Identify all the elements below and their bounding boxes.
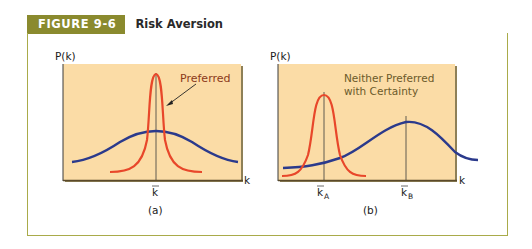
- panel-b-annotation-line1: Neither Preferred: [344, 72, 434, 84]
- panel-b-tick-ka: k: [317, 186, 324, 198]
- panel-b: Neither Preferred with Certainty P(k) k …: [270, 50, 478, 216]
- panel-b-tick-kb: k: [401, 186, 408, 198]
- panel-a-ylabel: P(k): [55, 50, 76, 62]
- panel-b-caption: (b): [363, 204, 378, 216]
- risk-aversion-charts: Preferred P(k) k k (a) Neither Preferred…: [0, 0, 532, 249]
- panel-a-caption: (a): [148, 204, 163, 216]
- panel-b-ylabel: P(k): [270, 50, 291, 62]
- panel-a-tick-k: k: [152, 186, 159, 198]
- panel-b-tick-ka-subscript: A: [324, 192, 330, 201]
- panel-a: Preferred P(k) k k (a): [55, 50, 251, 216]
- panel-b-tick-kb-subscript: B: [408, 192, 413, 201]
- panel-a-annotation: Preferred: [180, 72, 231, 85]
- panel-b-annotation-line2: with Certainty: [344, 85, 418, 97]
- panel-a-xlabel: k: [244, 174, 251, 186]
- panel-b-xlabel: k: [459, 174, 466, 186]
